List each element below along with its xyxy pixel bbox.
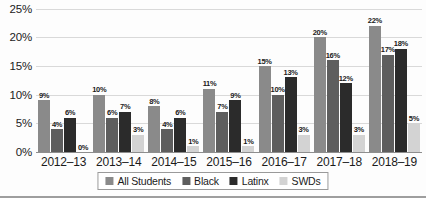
y-axis-tick-label: 15% [10, 60, 32, 72]
x-axis-tick-label: 2017–18 [312, 153, 367, 171]
bar-slot: 1% [187, 0, 199, 152]
bar-slot: 7% [216, 0, 228, 152]
bar[interactable]: 15% [259, 66, 271, 152]
chart-legend: All StudentsBlackLatinxSWDs [97, 172, 328, 190]
bar-value-label: 6% [107, 108, 117, 117]
bar-slot: 6% [64, 0, 76, 152]
bar-value-label: 22% [368, 16, 382, 25]
bar[interactable]: 10% [272, 95, 284, 152]
x-axis-tick-label: 2013–14 [91, 153, 146, 171]
bar-slot: 3% [298, 0, 310, 152]
x-axis-tick-label: 2018–19 [367, 153, 422, 171]
bar-slot: 9% [229, 0, 241, 152]
bar-slot: 11% [203, 0, 215, 152]
bar-slot: 15% [259, 0, 271, 152]
bar-slot: 20% [314, 0, 326, 152]
bottom-edge-rule [0, 196, 426, 198]
bar-slot: 10% [272, 0, 284, 152]
legend-item[interactable]: All Students [105, 175, 171, 187]
bar[interactable]: 17% [382, 55, 394, 152]
bar[interactable]: 12% [340, 83, 352, 152]
plot-area: 9%4%6%0%10%6%7%3%8%4%6%1%11%7%9%1%15%10%… [36, 0, 422, 152]
bar-slot: 1% [242, 0, 254, 152]
bar[interactable]: 8% [148, 106, 160, 152]
bar-slot: 10% [93, 0, 105, 152]
bar[interactable]: 3% [353, 135, 365, 152]
legend-label: Latinx [242, 175, 269, 187]
bar-group: 8%4%6%1% [146, 0, 201, 152]
bar[interactable]: 6% [64, 118, 76, 152]
legend-swatch-icon [105, 177, 113, 185]
bar[interactable]: 22% [369, 26, 381, 152]
y-axis-tick-label: 25% [10, 3, 32, 15]
bar-value-label: 3% [299, 125, 309, 134]
y-axis: 0%5%10%15%20%25%30% [0, 0, 36, 152]
y-axis-tick-label: 5% [16, 117, 32, 129]
bar-value-label: 6% [175, 108, 185, 117]
bar-value-label: 18% [394, 39, 408, 48]
bar-slot: 4% [161, 0, 173, 152]
bar[interactable]: 1% [242, 146, 254, 152]
bar-groups: 9%4%6%0%10%6%7%3%8%4%6%1%11%7%9%1%15%10%… [36, 0, 422, 152]
bar[interactable]: 4% [161, 129, 173, 152]
legend-swatch-icon [280, 177, 288, 185]
legend-item[interactable]: Black [182, 175, 219, 187]
legend-item[interactable]: SWDs [280, 175, 321, 187]
bar-value-label: 1% [243, 137, 253, 146]
bar[interactable]: 16% [327, 60, 339, 152]
bar[interactable]: 3% [298, 135, 310, 152]
bar-slot: 8% [148, 0, 160, 152]
legend-swatch-icon [182, 177, 190, 185]
bar-slot: 6% [174, 0, 186, 152]
bar-value-label: 10% [92, 85, 106, 94]
bar-slot: 22% [369, 0, 381, 152]
bar-slot: 0% [77, 0, 89, 152]
bar-group: 11%7%9%1% [201, 0, 256, 152]
bar-value-label: 1% [188, 137, 198, 146]
bar[interactable]: 18% [395, 49, 407, 152]
bar-value-label: 10% [271, 85, 285, 94]
bar-slot: 9% [38, 0, 50, 152]
bar-value-label: 7% [217, 102, 227, 111]
bar[interactable]: 1% [187, 146, 199, 152]
bar[interactable]: 10% [93, 95, 105, 152]
bar[interactable]: 20% [314, 37, 326, 152]
bar[interactable]: 4% [51, 129, 63, 152]
bar[interactable]: 11% [203, 89, 215, 152]
bar-value-label: 4% [52, 120, 62, 129]
bar[interactable]: 9% [38, 100, 50, 152]
y-axis-tick-label: 10% [10, 89, 32, 101]
x-axis-tick-label: 2014–15 [146, 153, 201, 171]
bar-group: 20%16%12%3% [312, 0, 367, 152]
bar-group: 9%4%6%0% [36, 0, 91, 152]
legend-label: Black [194, 175, 219, 187]
bar[interactable]: 13% [285, 77, 297, 152]
bar-value-label: 12% [339, 74, 353, 83]
bar-slot: 3% [353, 0, 365, 152]
bar-slot: 17% [382, 0, 394, 152]
bar[interactable]: 3% [132, 135, 144, 152]
bar[interactable]: 9% [229, 100, 241, 152]
bar-slot: 18% [395, 0, 407, 152]
bar[interactable]: 6% [174, 118, 186, 152]
bar-value-label: 3% [133, 125, 143, 134]
legend-label: SWDs [292, 175, 321, 187]
legend-item[interactable]: Latinx [230, 175, 269, 187]
bar[interactable]: 7% [216, 112, 228, 152]
x-axis: 2012–132013–142014–152015–162016–172017–… [36, 153, 422, 171]
bar-value-label: 6% [65, 108, 75, 117]
bar-chart: 0%5%10%15%20%25%30% 9%4%6%0%10%6%7%3%8%4… [0, 0, 426, 198]
bar[interactable]: 6% [106, 118, 118, 152]
bar-slot: 7% [119, 0, 131, 152]
legend-swatch-icon [230, 177, 238, 185]
bar-group: 10%6%7%3% [91, 0, 146, 152]
bar[interactable]: 7% [119, 112, 131, 152]
bar[interactable]: 5% [408, 123, 420, 152]
x-axis-tick-label: 2012–13 [36, 153, 91, 171]
bar-value-label: 0% [78, 143, 88, 152]
bar-group: 15%10%13%3% [257, 0, 312, 152]
bar-slot: 12% [340, 0, 352, 152]
legend-label: All Students [117, 175, 171, 187]
bar-value-label: 15% [258, 57, 272, 66]
bar-value-label: 7% [120, 102, 130, 111]
